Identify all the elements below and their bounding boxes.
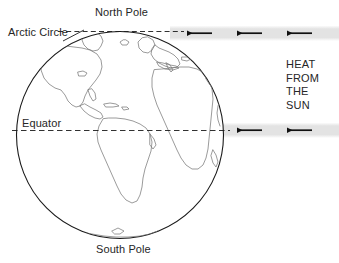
label-arctic-circle: Arctic Circle	[8, 26, 68, 38]
caption-line-1: HEAT	[286, 58, 319, 72]
label-north-pole: North Pole	[95, 6, 148, 18]
caption-line-3: THE	[286, 85, 319, 99]
label-south-pole: South Pole	[96, 243, 151, 255]
diagram-canvas	[0, 0, 339, 263]
caption-line-4: SUN	[286, 99, 319, 113]
label-equator: Equator	[22, 117, 61, 129]
heat-from-the-sun-caption: HEAT FROM THE SUN	[286, 58, 319, 112]
caption-line-2: FROM	[286, 72, 319, 86]
globe-outline	[17, 32, 224, 239]
globe	[12, 30, 230, 240]
earth-heat-diagram: North Pole Arctic Circle Equator South P…	[0, 0, 339, 263]
